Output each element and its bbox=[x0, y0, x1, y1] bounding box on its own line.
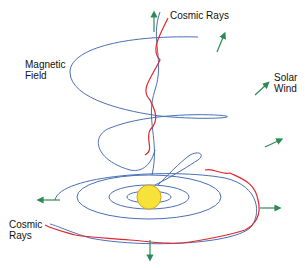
label-cosmic: Cosmic bbox=[9, 219, 42, 230]
label-field: Field bbox=[25, 70, 47, 81]
label-rays: Rays bbox=[9, 230, 32, 241]
label-solar: Solar bbox=[274, 72, 297, 83]
label-cosmic-rays-top: Cosmic Rays bbox=[170, 10, 229, 21]
label-magnetic: Magnetic bbox=[25, 59, 66, 70]
label-wind: Wind bbox=[274, 83, 297, 94]
magnetic-field-lines bbox=[50, 12, 257, 244]
solar-wind-arrows bbox=[40, 14, 280, 258]
diagram-graphic bbox=[0, 0, 305, 268]
sun bbox=[137, 185, 161, 209]
heliosphere-diagram: Cosmic Rays Magnetic Field Solar Wind Co… bbox=[0, 0, 305, 268]
cosmic-ray-paths bbox=[45, 18, 259, 243]
